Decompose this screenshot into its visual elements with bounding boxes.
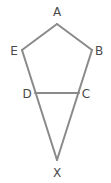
edge-ex	[22, 50, 57, 160]
label-d: D	[22, 87, 31, 101]
edge-bx	[57, 50, 92, 160]
label-x: X	[53, 166, 61, 180]
label-b: B	[95, 44, 103, 58]
edge-ab	[57, 24, 92, 50]
label-c: C	[82, 87, 90, 101]
label-e: E	[10, 44, 18, 58]
label-a: A	[53, 5, 62, 19]
geometry-diagram: A B C D E X	[0, 0, 111, 183]
edge-ae	[22, 24, 57, 50]
